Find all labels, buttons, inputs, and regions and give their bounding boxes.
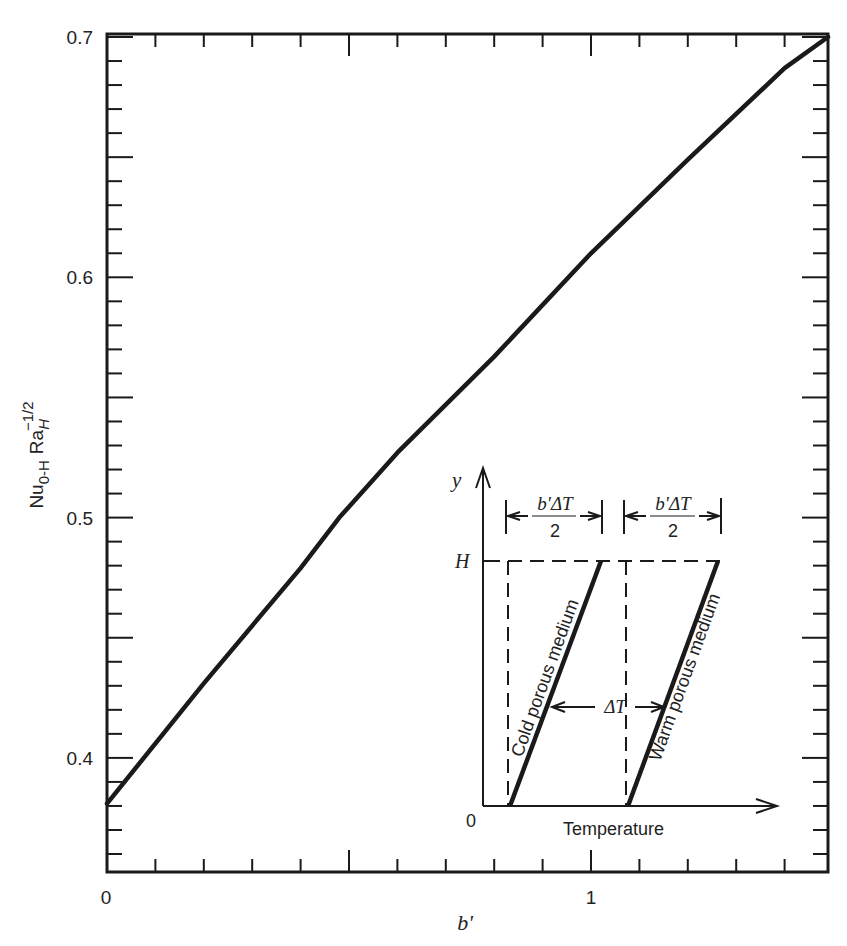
inset-origin-label: 0 <box>466 811 476 831</box>
inset-cold-profile-line <box>510 561 601 806</box>
inset-h-label: H <box>454 550 471 572</box>
y-axis-label: Nu0-HRaH−1/2 <box>19 401 52 508</box>
inset-dim-left-numerator: b'ΔT <box>537 493 574 514</box>
inset-dim-right-denominator: 2 <box>668 521 678 541</box>
inset-warm-label: Warm porous medium <box>645 591 724 764</box>
y-label-nu-sub: 0-H <box>35 460 52 484</box>
plot-frame <box>107 34 828 872</box>
inset-y-label: y <box>450 468 462 492</box>
y-label-ra: Ra <box>26 429 47 454</box>
y-tick-label: 0.7 <box>67 27 93 48</box>
inset-diagram <box>476 468 777 813</box>
chart-canvas: 0.40.50.60.701 Nu0-HRaH−1/2 b' <box>0 0 847 946</box>
y-tick-label: 0.6 <box>67 267 93 288</box>
inset-delta-label: ΔT <box>603 696 627 717</box>
axis-ticks <box>107 34 828 872</box>
y-label-nu: Nu <box>26 484 47 508</box>
x-tick-label: 1 <box>586 887 597 908</box>
y-tick-label: 0.4 <box>67 748 94 769</box>
data-curve <box>107 37 828 804</box>
inset-x-label: Temperature <box>563 819 664 839</box>
x-axis-label: b' <box>457 910 473 935</box>
y-label-ra-sub: H <box>35 419 52 430</box>
y-label-ra-sup: −1/2 <box>19 401 36 431</box>
inset-cold-label: Cold porous medium <box>507 596 583 759</box>
tick-labels: 0.40.50.60.701 <box>67 27 597 908</box>
inset-dim-left-denominator: 2 <box>550 521 560 541</box>
inset-dim-right-numerator: b'ΔT <box>655 493 692 514</box>
svg-text:Nu0-HRaH−1/2: Nu0-HRaH−1/2 <box>19 401 52 508</box>
x-tick-label: 0 <box>101 887 112 908</box>
y-tick-label: 0.5 <box>67 508 93 529</box>
